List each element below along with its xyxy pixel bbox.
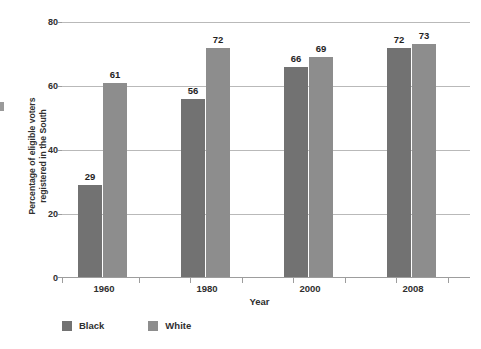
gridline-baseline <box>62 277 470 278</box>
x-tick-mark-3 <box>242 277 243 283</box>
x-category-label-1980: 1980 <box>177 283 237 294</box>
bar-label-2008-white: 73 <box>409 30 439 41</box>
bar-group-2008: 72 73 <box>387 22 439 277</box>
x-category-label-2000: 2000 <box>280 283 340 294</box>
bar-label-1980-black: 56 <box>178 85 208 96</box>
bar-group-1980: 56 72 <box>181 22 233 277</box>
chart-legend: Black White <box>62 320 235 331</box>
plot-area: 29 61 56 72 66 69 72 73 <box>62 22 470 277</box>
y-tick-label-60: 60 <box>32 81 58 91</box>
bar-label-2000-white: 69 <box>306 43 336 54</box>
bar-2000-black[interactable] <box>284 67 308 277</box>
bar-label-2000-black: 66 <box>281 53 311 64</box>
y-axis-tick-labels: 80 60 40 20 0 <box>28 22 58 277</box>
legend-item-white[interactable]: White <box>148 320 191 331</box>
y-tick-label-40: 40 <box>32 145 58 155</box>
bar-1980-black[interactable] <box>181 99 205 277</box>
bar-1960-black[interactable] <box>78 185 102 277</box>
x-category-label-2008: 2008 <box>383 283 443 294</box>
bar-chart: Percentage of eligible voters registered… <box>0 0 481 349</box>
bar-1980-white[interactable] <box>206 48 230 277</box>
x-tick-mark-1 <box>139 277 140 283</box>
legend-swatch-white-icon <box>148 321 158 331</box>
bar-1960-white[interactable] <box>103 83 127 277</box>
bar-label-1960-white: 61 <box>100 69 130 80</box>
bar-label-1960-black: 29 <box>75 171 105 182</box>
legend-swatch-black-icon <box>62 321 72 331</box>
legend-item-black[interactable]: Black <box>62 320 104 331</box>
y-tick-label-20: 20 <box>32 209 58 219</box>
x-tick-mark-7 <box>448 277 449 283</box>
bar-2008-white[interactable] <box>412 44 436 277</box>
bar-2008-black[interactable] <box>387 48 411 277</box>
legend-label-white: White <box>165 320 191 331</box>
bar-2000-white[interactable] <box>309 57 333 277</box>
bar-group-1960: 29 61 <box>78 22 130 277</box>
y-tick-label-0: 0 <box>32 273 58 283</box>
bar-group-2000: 66 69 <box>284 22 336 277</box>
x-axis-title: Year <box>0 296 481 307</box>
x-tick-mark-5 <box>345 277 346 283</box>
page-edge-artifact <box>0 102 4 111</box>
bar-label-1980-white: 72 <box>203 34 233 45</box>
x-tick-mark-0 <box>62 277 63 283</box>
legend-label-black: Black <box>79 320 104 331</box>
y-tick-label-80: 80 <box>32 17 58 27</box>
x-category-label-1960: 1960 <box>74 283 134 294</box>
